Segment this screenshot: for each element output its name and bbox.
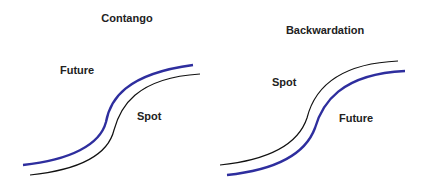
contango-future-label: Future (60, 64, 94, 76)
backwardation-panel: Backwardation Spot Future (220, 24, 405, 175)
contango-backwardation-diagram: Contango Future Spot Backwardation Spot … (0, 0, 431, 187)
contango-future-curve (23, 65, 193, 165)
contango-title: Contango (101, 12, 153, 24)
backwardation-future-label: Future (339, 112, 373, 124)
contango-panel: Contango Future Spot (23, 12, 200, 175)
backwardation-spot-label: Spot (272, 76, 297, 88)
backwardation-title: Backwardation (286, 24, 365, 36)
contango-spot-label: Spot (137, 110, 162, 122)
